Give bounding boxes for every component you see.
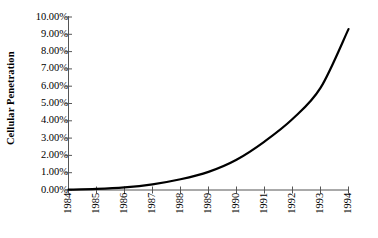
x-axis-tick-label-text: 1990 (231, 193, 242, 214)
x-axis-tick-label-text: 1989 (203, 193, 214, 214)
data-series-group (69, 29, 349, 190)
x-axis-tick-label-text: 1994 (343, 193, 354, 214)
cellular-penetration-chart: Cellular Penetration 0.00%1.00%2.00%3.00… (0, 0, 378, 238)
x-axis-tick-label: 1994 (329, 196, 369, 236)
x-axis-tick-labels: 1984198519861987198819891990199119921993… (0, 196, 378, 238)
x-axis-tick-label-text: 1985 (91, 193, 102, 214)
x-axis-tick-label-text: 1986 (119, 193, 130, 214)
x-axis-tick-label-text: 1988 (175, 193, 186, 214)
x-axis-tick-label-text: 1984 (63, 193, 74, 214)
x-axis-tick-label-text: 1992 (287, 193, 298, 214)
data-line-cellular-penetration (69, 29, 349, 190)
x-axis-tick-label-text: 1987 (147, 193, 158, 214)
x-axis-tick-label-text: 1993 (315, 193, 326, 214)
x-axis-tick-label-text: 1991 (259, 193, 270, 214)
